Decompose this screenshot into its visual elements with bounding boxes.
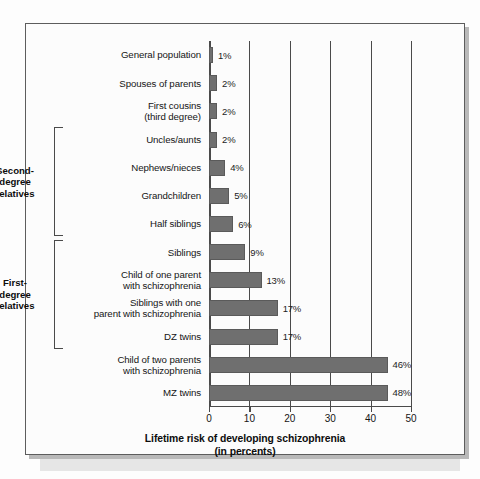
bar xyxy=(209,47,213,63)
bar-row: 13% xyxy=(209,272,411,288)
bar xyxy=(209,75,217,91)
bar-row: 1% xyxy=(209,47,411,63)
plot-area: 1%2%2%2%4%5%6%9%13%17%17%46%48% xyxy=(209,41,411,407)
x-tick-label-20: 20 xyxy=(284,413,295,424)
category-label: DZ twins xyxy=(164,331,201,342)
category-label: Siblings with one parent with schizophre… xyxy=(94,297,201,319)
bar xyxy=(209,160,225,176)
group-label-first-degree: First- degree relatives xyxy=(0,277,52,312)
category-label: First cousins (third degree) xyxy=(144,100,201,122)
bar-row: 2% xyxy=(209,132,411,148)
category-label: Child of two parents with schizophrenia xyxy=(117,354,201,376)
group-bracket-first-degree xyxy=(54,240,63,349)
bar xyxy=(209,329,278,345)
bar-value-label: 17% xyxy=(283,331,301,342)
x-tick-0 xyxy=(209,407,210,412)
bar-row: 9% xyxy=(209,244,411,260)
bar-row: 48% xyxy=(209,385,411,401)
x-tick-label-10: 10 xyxy=(244,413,255,424)
bar-value-label: 46% xyxy=(393,359,411,370)
bar-row: 17% xyxy=(209,329,411,345)
bar-value-label: 17% xyxy=(283,303,301,314)
bar-rows: 1%2%2%2%4%5%6%9%13%17%17%46%48% xyxy=(209,41,411,407)
chart-frame: General populationSpouses of parentsFirs… xyxy=(25,23,465,455)
x-tick-label-30: 30 xyxy=(325,413,336,424)
x-tick-30 xyxy=(330,407,331,412)
category-label: Grandchildren xyxy=(141,190,201,201)
x-axis-title: Lifetime risk of developing schizophreni… xyxy=(26,433,464,458)
page-shadow-band xyxy=(40,459,460,471)
x-tick-50 xyxy=(411,407,412,412)
x-tick-20 xyxy=(290,407,291,412)
bar-value-label: 5% xyxy=(234,190,247,201)
category-label-column: General populationSpouses of parentsFirs… xyxy=(66,41,205,407)
bar-value-label: 2% xyxy=(222,78,235,89)
bar-value-label: 13% xyxy=(267,275,285,286)
bar xyxy=(209,103,217,119)
bar xyxy=(209,357,388,373)
bar-value-label: 2% xyxy=(222,106,235,117)
category-label: Half siblings xyxy=(150,218,201,229)
bar xyxy=(209,385,388,401)
bar-value-label: 48% xyxy=(393,387,411,398)
x-tick-40 xyxy=(371,407,372,412)
bar-value-label: 1% xyxy=(218,50,231,61)
category-label: Uncles/aunts xyxy=(146,134,201,145)
bar xyxy=(209,272,262,288)
gridline-50 xyxy=(411,41,412,407)
bar-value-label: 9% xyxy=(250,247,263,258)
x-tick-label-0: 0 xyxy=(206,413,212,424)
x-tick-label-50: 50 xyxy=(405,413,416,424)
category-label: Nephews/nieces xyxy=(131,162,201,173)
bar-value-label: 6% xyxy=(238,219,251,230)
bar-row: 6% xyxy=(209,216,411,232)
category-label: MZ twins xyxy=(163,387,201,398)
bar-row: 2% xyxy=(209,75,411,91)
bar-row: 5% xyxy=(209,188,411,204)
bar-row: 2% xyxy=(209,103,411,119)
bar xyxy=(209,300,278,316)
bar-value-label: 4% xyxy=(230,162,243,173)
bar xyxy=(209,132,217,148)
bar-row: 4% xyxy=(209,160,411,176)
category-label: Child of one parent with schizophrenia xyxy=(121,269,201,291)
bar-row: 46% xyxy=(209,357,411,373)
x-tick-label-40: 40 xyxy=(365,413,376,424)
bar xyxy=(209,188,229,204)
bar-value-label: 2% xyxy=(222,134,235,145)
group-label-second-degree: Second- degree relatives xyxy=(0,165,52,200)
category-label: General population xyxy=(121,49,201,60)
category-label: Spouses of parents xyxy=(119,78,201,89)
bar-row: 17% xyxy=(209,300,411,316)
bar xyxy=(209,216,233,232)
bar xyxy=(209,244,245,260)
category-label: Siblings xyxy=(168,247,201,258)
group-bracket-second-degree xyxy=(54,127,63,236)
x-tick-10 xyxy=(249,407,250,412)
